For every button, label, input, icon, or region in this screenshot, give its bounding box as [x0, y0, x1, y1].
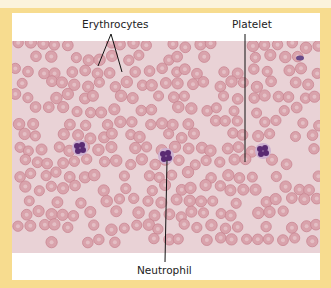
neutrophil-label: Neutrophil — [137, 264, 192, 276]
platelet-label: Platelet — [232, 18, 272, 30]
leader-lines — [0, 0, 331, 288]
erythrocyte-leader-line-right — [111, 34, 122, 72]
erythrocytes-label: Erythrocytes — [82, 18, 148, 30]
erythrocyte-leader-line-left — [98, 34, 111, 66]
neutrophil-leader-line — [165, 160, 167, 262]
